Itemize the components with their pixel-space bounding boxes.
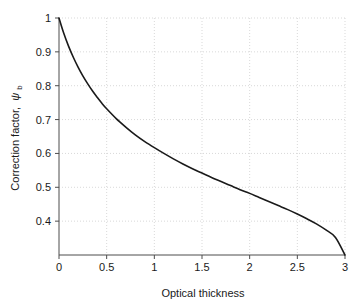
x-axis-title: Optical thickness [161, 287, 245, 299]
x-tick-label: 3 [342, 261, 348, 273]
x-tick-label: 1.5 [194, 261, 209, 273]
y-tick-label: 0.9 [36, 46, 51, 58]
chart-container: 00.511.522.53 0.40.50.60.70.80.91 Optica… [0, 0, 362, 305]
x-tick-label: 0.5 [99, 261, 114, 273]
y-tick-label: 0.6 [36, 147, 51, 159]
x-tick-label: 2.5 [290, 261, 305, 273]
y-tick-label: 0.7 [36, 114, 51, 126]
chart-svg: 00.511.522.53 0.40.50.60.70.80.91 Optica… [0, 0, 362, 305]
x-tick-label: 1 [151, 261, 157, 273]
y-axis-title-subscript: b [15, 85, 24, 90]
y-tick-label: 0.8 [36, 80, 51, 92]
x-tick-label: 0 [56, 261, 62, 273]
x-tick-label: 2 [247, 261, 253, 273]
y-axis-title-symbol: ψ [9, 93, 21, 101]
x-axis-tick-labels: 00.511.522.53 [56, 261, 348, 273]
y-tick-label: 0.5 [36, 181, 51, 193]
y-tick-label: 0.4 [36, 215, 51, 227]
y-axis-title-main: Correction factor, [9, 107, 21, 191]
y-tick-label: 1 [45, 12, 51, 24]
chart-background [0, 0, 362, 305]
